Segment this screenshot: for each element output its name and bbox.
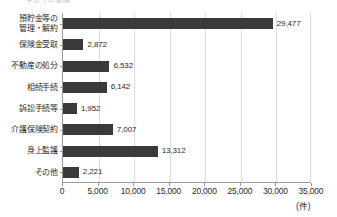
bar-row: 29,477 xyxy=(63,13,310,34)
axis-tick xyxy=(60,87,63,88)
bar-value-label: 29,477 xyxy=(277,18,301,30)
x-axis-tick-label: 5,000 xyxy=(87,186,107,196)
category-label: 身上監護 xyxy=(2,146,58,156)
axis-tick xyxy=(60,172,63,173)
x-axis-tick-label: 0 xyxy=(60,186,65,196)
bar-value-label: 1,952 xyxy=(81,103,101,115)
x-axis-tick-mark xyxy=(98,183,99,186)
x-axis-tick-label: 20,000 xyxy=(192,186,217,196)
bar xyxy=(63,124,113,135)
x-axis-tick-mark xyxy=(133,183,134,186)
bar-row: 2,872 xyxy=(63,34,310,55)
bar-value-label: 7,007 xyxy=(117,124,137,136)
axis-tick xyxy=(60,45,63,46)
bar xyxy=(63,61,109,72)
bar xyxy=(63,18,273,29)
caption-strip: 申立ての動機 xyxy=(0,0,337,8)
x-axis-unit-label: (件) xyxy=(296,199,311,211)
x-axis-tick-label: 15,000 xyxy=(156,186,181,196)
bar-row: 2,221 xyxy=(63,162,310,183)
category-label: 訴訟手続等 xyxy=(2,104,58,114)
bar-value-label: 6,532 xyxy=(113,60,133,72)
x-axis-tick-mark xyxy=(240,183,241,186)
chart-figure: 申立ての動機 29,4772,8726,5326,1421,9527,00713… xyxy=(0,0,337,217)
category-label: 不動産の処分 xyxy=(2,61,58,71)
category-label: 預貯金等の 管理・解約 xyxy=(2,14,58,33)
bar xyxy=(63,167,79,178)
bar-value-label: 2,221 xyxy=(83,166,103,178)
x-axis-tick-label: 25,000 xyxy=(227,186,252,196)
bar-row: 6,532 xyxy=(63,56,310,77)
axis-tick xyxy=(60,66,63,67)
plot-area: 29,4772,8726,5326,1421,9527,00713,3122,2… xyxy=(62,13,311,183)
bar-value-label: 6,142 xyxy=(111,81,131,93)
x-axis-tick-mark xyxy=(169,183,170,186)
x-axis-tick-mark xyxy=(62,183,63,186)
bar-row: 6,142 xyxy=(63,77,310,98)
bar xyxy=(63,82,107,93)
x-axis-tick-label: 30,000 xyxy=(263,186,288,196)
bar-row: 1,952 xyxy=(63,98,310,119)
category-label: その他 xyxy=(2,168,58,178)
bar-value-label: 13,312 xyxy=(162,145,186,157)
axis-tick xyxy=(60,130,63,131)
bar-value-label: 2,872 xyxy=(87,39,107,51)
x-axis-tick-label: 35,000 xyxy=(299,186,324,196)
bar-row: 7,007 xyxy=(63,119,310,140)
axis-tick xyxy=(60,109,63,110)
x-axis-tick-mark xyxy=(204,183,205,186)
category-label: 介護保険契約 xyxy=(2,125,58,135)
x-axis-tick-mark xyxy=(311,183,312,186)
axis-tick xyxy=(60,24,63,25)
bar xyxy=(63,39,83,50)
x-axis-tick-label: 10,000 xyxy=(121,186,146,196)
bar-row: 13,312 xyxy=(63,141,310,162)
axis-tick xyxy=(60,151,63,152)
x-axis-tick-mark xyxy=(275,183,276,186)
caption-text: 申立ての動機 xyxy=(26,0,70,4)
category-label: 相続手続 xyxy=(2,83,58,93)
bar xyxy=(63,146,158,157)
bar xyxy=(63,103,77,114)
category-label: 保険金受取 xyxy=(2,40,58,50)
